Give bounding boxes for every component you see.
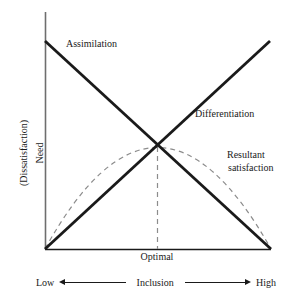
x-axis-high-label: High bbox=[256, 277, 276, 288]
y-axis-label-need: Need bbox=[34, 142, 45, 163]
y-axis-label: Need (Dissatisfaction) bbox=[10, 85, 46, 220]
x-axis-low-label: Low bbox=[36, 277, 54, 288]
arrow-right-icon bbox=[245, 279, 251, 285]
annotation-resultant-line2: satisfaction bbox=[227, 161, 274, 174]
x-axis-title: Inclusion bbox=[131, 277, 180, 288]
x-axis-label-row: Low Inclusion High bbox=[36, 273, 276, 291]
axis-rule-right bbox=[185, 282, 245, 283]
x-tick-label-optimal: Optimal bbox=[0, 251, 302, 263]
annotation-resultant-line1: Resultant bbox=[227, 149, 265, 160]
axis-rule-left bbox=[65, 282, 125, 283]
annotation-assimilation: Assimilation bbox=[66, 38, 117, 50]
annotation-resultant-satisfaction: Resultant satisfaction bbox=[227, 148, 274, 174]
x-axis-arrow-left bbox=[54, 279, 130, 285]
y-axis-label-dissatisfaction: (Dissatisfaction) bbox=[18, 119, 29, 185]
diagram-figure: Assimilation Differentiation Resultant s… bbox=[0, 0, 302, 304]
annotation-differentiation: Differentiation bbox=[195, 108, 254, 120]
x-axis-arrow-right bbox=[180, 279, 256, 285]
